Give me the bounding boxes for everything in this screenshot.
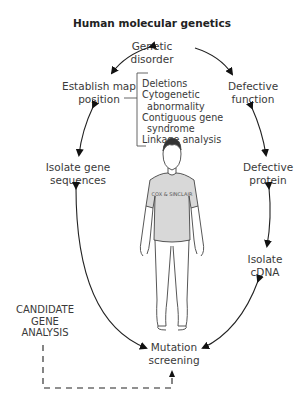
- arrow-protein-cdna: [267, 188, 270, 246]
- diagram-arrows: COX & SINCLAIR: [0, 0, 304, 407]
- diagram: Human molecular genetics Genetic disorde…: [0, 0, 304, 407]
- human-figure-icon: [140, 138, 203, 330]
- arrowhead-candidate: [169, 370, 175, 377]
- arrow-function-protein: [252, 108, 266, 155]
- arrow-cdna-mutation: [203, 281, 258, 348]
- arrow-sequences-mutation: [76, 188, 146, 348]
- methods-bracket: [124, 73, 148, 146]
- arrow-map-sequences: [79, 107, 93, 155]
- arrow-disorder-map: [112, 47, 150, 73]
- arrow-disorder-function: [195, 48, 232, 74]
- dashed-connector-candidate: [43, 345, 172, 388]
- shirt-text: COX & SINCLAIR: [152, 191, 193, 197]
